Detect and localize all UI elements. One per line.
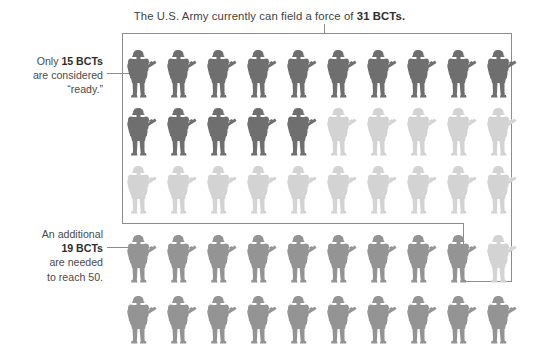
annotation-needed-line1: An additional xyxy=(42,228,103,240)
soldier-row-5 xyxy=(122,287,522,344)
annotation-needed: An additional 19 BCTs are needed to reac… xyxy=(0,227,103,284)
soldier-icon xyxy=(122,41,162,98)
soldier-icon xyxy=(162,157,202,214)
annotation-ready: Only 15 BCTs are considered “ready.” xyxy=(0,54,103,97)
page-title-emphasis: 31 BCTs. xyxy=(357,10,405,22)
soldier-icon xyxy=(442,41,482,98)
soldier-icon xyxy=(282,99,322,156)
soldier-icon xyxy=(202,287,242,344)
soldier-icon xyxy=(442,99,482,156)
soldier-icon xyxy=(362,226,402,283)
soldier-icon xyxy=(482,287,522,344)
soldier-icon xyxy=(162,41,202,98)
soldier-icon xyxy=(202,41,242,98)
soldier-icon xyxy=(282,287,322,344)
soldier-icon xyxy=(242,157,282,214)
soldier-icon xyxy=(282,226,322,283)
soldier-icon xyxy=(282,41,322,98)
soldier-icon xyxy=(482,226,522,283)
soldier-icon xyxy=(482,157,522,214)
soldier-icon xyxy=(122,287,162,344)
soldier-icon xyxy=(322,226,362,283)
soldier-icon xyxy=(402,41,442,98)
annotation-ready-line1-bold: 15 BCTs xyxy=(61,55,103,67)
annotation-needed-line3: are needed xyxy=(49,256,103,268)
soldier-icon xyxy=(362,99,402,156)
annotation-ready-line2: are considered xyxy=(33,69,103,81)
soldier-icon xyxy=(362,157,402,214)
soldier-icon xyxy=(242,226,282,283)
soldier-icon xyxy=(162,99,202,156)
page-title: The U.S. Army currently can field a forc… xyxy=(0,9,539,23)
soldier-row-2 xyxy=(122,99,522,156)
soldier-icon xyxy=(242,41,282,98)
headline-leader-line xyxy=(324,24,325,33)
soldier-icon xyxy=(402,226,442,283)
soldier-icon xyxy=(362,41,402,98)
pictogram-chart xyxy=(122,33,539,358)
soldier-row-1 xyxy=(122,41,522,98)
soldier-icon xyxy=(482,99,522,156)
soldier-icon xyxy=(322,287,362,344)
soldier-icon xyxy=(322,157,362,214)
soldier-icon xyxy=(322,99,362,156)
soldier-icon xyxy=(162,226,202,283)
page-title-text: The U.S. Army currently can field a forc… xyxy=(134,10,357,22)
soldier-row-3 xyxy=(122,157,522,214)
soldier-icon xyxy=(202,157,242,214)
soldier-icon xyxy=(202,99,242,156)
soldier-icon xyxy=(402,157,442,214)
soldier-icon xyxy=(362,287,402,344)
soldier-icon xyxy=(202,226,242,283)
soldier-icon xyxy=(442,226,482,283)
soldier-icon xyxy=(482,41,522,98)
soldier-icon xyxy=(122,99,162,156)
soldier-row-4 xyxy=(122,226,522,283)
soldier-icon xyxy=(402,287,442,344)
soldier-icon xyxy=(322,41,362,98)
fielded-force-box-bottom-edge xyxy=(122,223,463,224)
annotation-needed-line2-bold: 19 BCTs xyxy=(61,242,103,254)
soldier-icon xyxy=(122,157,162,214)
soldier-icon xyxy=(242,99,282,156)
annotation-ready-line1-pre: Only xyxy=(37,55,62,67)
annotation-needed-line4: to reach 50. xyxy=(47,271,103,283)
soldier-icon xyxy=(122,226,162,283)
soldier-icon xyxy=(402,99,442,156)
soldier-icon xyxy=(282,157,322,214)
soldier-icon xyxy=(442,157,482,214)
soldier-icon xyxy=(442,287,482,344)
soldier-icon xyxy=(162,287,202,344)
soldier-icon xyxy=(242,287,282,344)
annotation-ready-line3: “ready.” xyxy=(67,83,103,95)
